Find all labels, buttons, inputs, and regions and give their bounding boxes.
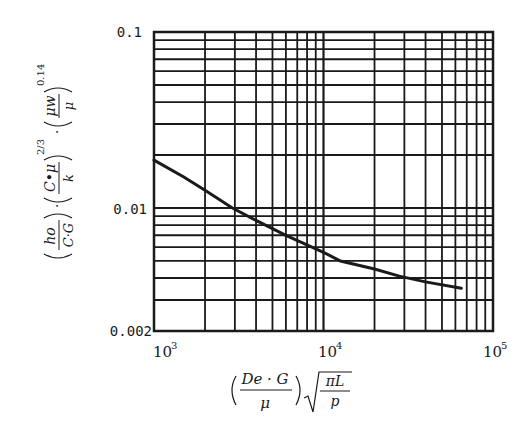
svg-text:μ: μ — [260, 394, 270, 412]
svg-text:·: · — [49, 204, 65, 208]
svg-text:C·G: C·G — [61, 223, 76, 247]
y-axis-label: ho C·G · C•μ k 2/3 · μw μ 0.14 — [35, 64, 76, 258]
svg-text:p: p — [331, 393, 340, 409]
svg-text:3: 3 — [171, 340, 177, 351]
x-tick-label-1e3: 10 3 — [153, 340, 177, 361]
svg-text:5: 5 — [501, 340, 507, 351]
y-tick-label-0.002: 0.002 — [110, 323, 152, 339]
svg-text:4: 4 — [336, 340, 342, 351]
chart: 0.1 0.01 0.002 10 3 10 4 10 5 De · G μ π… — [0, 0, 529, 437]
svg-text:C•μ: C•μ — [42, 164, 58, 192]
svg-text:0.14: 0.14 — [35, 64, 46, 86]
y-tick-label-0.1: 0.1 — [117, 24, 142, 40]
svg-text:ho: ho — [42, 227, 58, 244]
svg-text:μw: μw — [42, 95, 58, 116]
svg-text:2/3: 2/3 — [35, 139, 46, 155]
x-tick-label-1e5: 10 5 — [483, 340, 507, 361]
svg-text:10: 10 — [483, 343, 502, 361]
svg-text:πL: πL — [325, 373, 345, 389]
svg-text:10: 10 — [318, 343, 337, 361]
x-tick-label-1e4: 10 4 — [318, 340, 342, 361]
svg-text:·: · — [49, 130, 65, 134]
svg-text:De · G: De · G — [240, 370, 288, 388]
x-axis-label: De · G μ πL p — [232, 370, 352, 412]
svg-text:10: 10 — [153, 343, 172, 361]
y-tick-label-0.01: 0.01 — [113, 201, 147, 217]
svg-text:k: k — [61, 174, 76, 182]
svg-text:μ: μ — [61, 102, 76, 110]
